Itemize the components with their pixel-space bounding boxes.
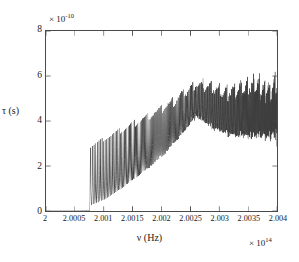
y-axis-tick-label: 8 <box>16 25 42 35</box>
x-axis-tick-label: 2.0015 <box>121 215 144 223</box>
y-axis-multiplier-exponent: -10 <box>65 12 74 19</box>
figure-container: × 10-10 × 1014 02468 22.00052.0012.00152… <box>0 0 299 262</box>
x-axis-title: ν (Hz) <box>0 232 299 243</box>
x-axis-tick-label: 2 <box>43 215 47 223</box>
y-axis-multiplier: × 10-10 <box>49 12 74 24</box>
y-axis-tick-label: 2 <box>16 162 42 172</box>
plot-data-canvas <box>46 31 277 211</box>
x-axis-tick-label: 2.004 <box>269 215 287 223</box>
y-axis-title: τ (s) <box>2 105 19 116</box>
y-axis-multiplier-mantissa: × 10 <box>49 14 65 24</box>
x-axis-tick-label: 2.001 <box>94 215 112 223</box>
y-axis-tick-labels: 02468 <box>14 30 42 212</box>
y-axis-tick-label: 0 <box>16 207 42 217</box>
plot-frame <box>45 30 278 212</box>
y-axis-tick-label: 6 <box>16 71 42 81</box>
x-axis-tick-label: 2.0025 <box>179 215 202 223</box>
x-axis-tick-label: 2.003 <box>211 215 229 223</box>
x-axis-tick-label: 2.0005 <box>63 215 86 223</box>
x-axis-tick-label: 2.002 <box>152 215 170 223</box>
x-axis-tick-label: 2.0035 <box>238 215 261 223</box>
x-axis-tick-labels: 22.00052.0012.00152.0022.00252.0032.0035… <box>45 215 278 227</box>
y-axis-tick-label: 4 <box>16 116 42 126</box>
